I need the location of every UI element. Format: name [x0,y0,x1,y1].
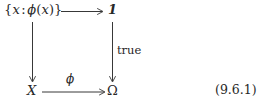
arrow-label-true: true [117,45,141,57]
top-horizontal-arrow-icon [61,9,103,15]
arrow-label-phi: ϕ [66,73,74,85]
node-domain-object: X [27,84,36,97]
comprehension-variable: x [12,2,19,17]
predicate-variable: x [41,2,48,17]
right-vertical-arrow-icon [110,22,116,82]
left-vertical-arrow-icon [30,22,36,82]
node-terminal-object: 1 [108,3,117,16]
bottom-horizontal-arrow-icon [42,89,105,95]
equation-number: (9.6.1) [215,84,257,97]
predicate-symbol: ϕ [27,2,36,17]
node-subset-comprehension: {x:ϕ(x)} [4,3,62,16]
close-brace: } [54,2,62,17]
equation-figure: {x:ϕ(x)} 1 X Ω true ϕ (9.6.1) [0,0,273,106]
node-subobject-classifier: Ω [107,84,118,97]
